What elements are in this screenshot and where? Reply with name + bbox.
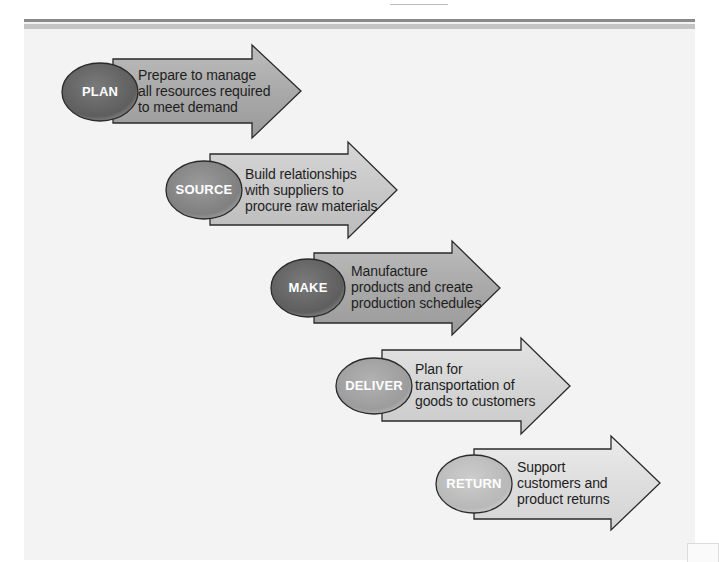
return-description: Support customers and product returns [517,459,610,507]
deliver-description-line: goods to customers [415,393,535,409]
plan-description-line: Prepare to manage [138,67,270,83]
make-description-line: products and create [351,279,481,295]
source-description: Build relationships with suppliers to pr… [245,166,378,214]
return-description-line: product returns [517,491,610,507]
deliver-description: Plan for transportation of goods to cust… [415,361,535,409]
source-description-line: with suppliers to [245,182,378,198]
return-description-line: Support [517,459,610,475]
plan-description: Prepare to manage all resources required… [138,67,270,115]
source-description-line: Build relationships [245,166,378,182]
deliver-description-line: Plan for [415,361,535,377]
make-label: MAKE [271,280,345,295]
make-description-line: Manufacture [351,263,481,279]
source-label: SOURCE [166,182,242,197]
plan-description-line: to meet demand [138,99,270,115]
plan-description-line: all resources required [138,83,270,99]
plan-label: PLAN [62,84,138,99]
source-description-line: procure raw materials [245,198,378,214]
make-description: Manufacture products and create producti… [351,263,481,311]
return-description-line: customers and [517,475,610,491]
deliver-label: DELIVER [336,378,412,393]
return-label: RETURN [436,476,512,491]
make-description-line: production schedules [351,295,481,311]
deliver-description-line: transportation of [415,377,535,393]
